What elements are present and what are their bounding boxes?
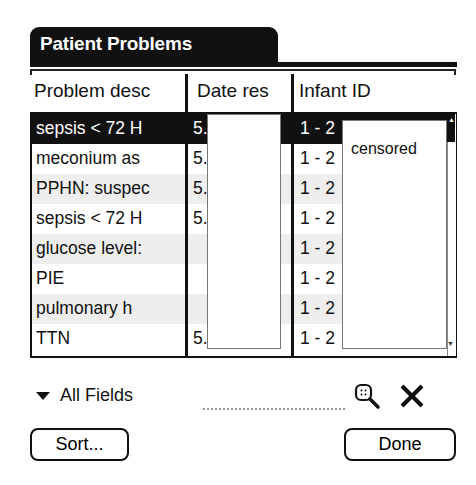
field-selector[interactable]: All Fields — [36, 385, 133, 406]
column-header-infant-id[interactable]: Infant ID — [299, 80, 371, 102]
header-border-cap-left — [30, 69, 32, 75]
problem-desc-cell: pulmonary h — [36, 298, 186, 319]
problem-desc-cell: PPHN: suspec — [36, 178, 186, 199]
column-divider — [185, 112, 188, 358]
field-selector-label: All Fields — [60, 385, 133, 406]
censor-box-date — [207, 114, 281, 349]
done-button[interactable]: Done — [344, 428, 456, 461]
column-header-problem-desc[interactable]: Problem desc — [34, 80, 150, 102]
problem-desc-cell: sepsis < 72 H — [36, 118, 186, 139]
problem-desc-cell: sepsis < 72 H — [36, 208, 186, 229]
x-icon[interactable] — [398, 382, 426, 410]
window-title: Patient Problems — [40, 33, 192, 55]
vertical-scrollbar[interactable] — [447, 114, 456, 356]
dropdown-triangle-icon — [36, 392, 50, 400]
problem-desc-cell: TTN — [36, 328, 186, 349]
censor-label: censored — [351, 140, 417, 158]
column-header-date-res[interactable]: Date res — [197, 80, 269, 102]
header-top-border — [31, 69, 456, 71]
problem-desc-cell: meconium as — [36, 148, 186, 169]
scroll-up-arrow-icon[interactable]: ▲ — [448, 116, 455, 123]
problem-desc-cell: glucose level: — [36, 238, 186, 259]
magnifier-icon[interactable] — [353, 382, 383, 412]
header-border-cap-right — [454, 69, 456, 75]
search-input[interactable] — [203, 408, 345, 410]
problem-desc-cell: PIE — [36, 268, 186, 289]
header-divider[interactable] — [185, 74, 188, 112]
column-divider — [291, 112, 294, 358]
scroll-down-arrow-icon[interactable]: ▼ — [447, 340, 454, 347]
sort-button[interactable]: Sort... — [30, 428, 129, 461]
header-divider[interactable] — [291, 74, 294, 112]
